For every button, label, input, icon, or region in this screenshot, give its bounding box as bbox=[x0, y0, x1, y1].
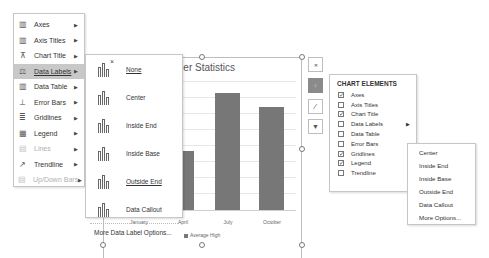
checkbox-unchecked[interactable] bbox=[338, 170, 344, 176]
data-labels-option-outside-end[interactable]: Outside End bbox=[86, 167, 182, 195]
option-label: Center bbox=[126, 94, 146, 101]
resize-handle-top-right[interactable] bbox=[299, 54, 305, 60]
submenu-arrow-icon: ▶ bbox=[74, 53, 78, 59]
flyout-inside-base[interactable]: Inside Base bbox=[408, 172, 475, 185]
option-label: Inside End bbox=[126, 122, 157, 129]
brush-icon: ⁄ bbox=[315, 102, 316, 111]
data-labels-option-inside-base[interactable]: Inside Base bbox=[86, 139, 182, 167]
resize-handle-bottom-left[interactable] bbox=[100, 242, 106, 248]
flyout-center[interactable]: Center bbox=[408, 146, 475, 159]
x-tick-label: October bbox=[252, 219, 292, 225]
lines-icon: ▤ bbox=[18, 144, 27, 153]
chart-layout-button[interactable]: ⌅ bbox=[308, 57, 323, 72]
menu-item-data-labels[interactable]: ⚖ Data Labels ▶ bbox=[14, 64, 84, 80]
menu-item-up-down-bars: ▤ Up/Down Bars ▶ bbox=[14, 172, 84, 188]
chart-title-icon: ⊼ bbox=[18, 51, 27, 60]
element-data-table[interactable]: Data Table bbox=[330, 129, 416, 139]
element-error-bars[interactable]: Error Bars bbox=[330, 139, 416, 149]
filter-icon: ▼ bbox=[312, 123, 319, 130]
menu-item-label: Lines bbox=[34, 145, 74, 152]
element-trendline[interactable]: Trendline bbox=[330, 168, 416, 178]
data-table-icon: ▥ bbox=[18, 82, 27, 91]
checkbox-unchecked[interactable] bbox=[338, 121, 344, 127]
element-chart-title[interactable]: ✓ Chart Title bbox=[330, 110, 416, 120]
menu-item-trendline[interactable]: ↗ Trendline ▶ bbox=[14, 157, 84, 173]
gridlines-icon: ≣ bbox=[18, 113, 27, 122]
checkbox-checked[interactable]: ✓ bbox=[338, 92, 344, 98]
submenu-arrow-icon: ▶ bbox=[74, 99, 78, 105]
submenu-arrow-icon: ▶ bbox=[74, 22, 78, 28]
submenu-arrow-icon: ▶ bbox=[74, 146, 78, 152]
bar-october[interactable] bbox=[259, 107, 284, 210]
data-labels-icon: ⚖ bbox=[18, 67, 27, 76]
element-label: Data Table bbox=[351, 131, 380, 137]
menu-item-error-bars[interactable]: ⊥ Error Bars ▶ bbox=[14, 95, 84, 111]
element-axes[interactable]: ✓ Axes bbox=[330, 90, 416, 100]
menu-item-label: Axes bbox=[34, 21, 74, 28]
checkbox-unchecked[interactable] bbox=[338, 141, 344, 147]
data-labels-submenu: × None Center Inside End Inside Base Out… bbox=[85, 54, 183, 218]
menu-item-gridlines[interactable]: ≣ Gridlines ▶ bbox=[14, 110, 84, 126]
submenu-arrow-icon: ▶ bbox=[74, 68, 78, 74]
checkbox-checked[interactable]: ✓ bbox=[338, 160, 344, 166]
menu-item-data-table[interactable]: ▥ Data Table ▶ bbox=[14, 79, 84, 95]
menu-item-label: Legend bbox=[34, 130, 74, 137]
option-label: Outside End bbox=[126, 178, 162, 185]
resize-handle-right[interactable] bbox=[299, 146, 305, 152]
element-label: Data Labels bbox=[351, 121, 383, 127]
chart-elements-menu: ▥ Axes ▶ ▥ Axis Titles ▶ ⊼ Chart Title ▶… bbox=[13, 13, 85, 187]
layout-icon: ⌅ bbox=[313, 61, 319, 69]
element-label: Axis Titles bbox=[351, 102, 378, 108]
flyout-more-options[interactable]: More Options... bbox=[408, 211, 475, 224]
menu-item-lines: ▤ Lines ▶ bbox=[14, 141, 84, 157]
bar-july[interactable] bbox=[215, 93, 240, 210]
trendline-icon: ↗ bbox=[18, 160, 27, 169]
option-label: None bbox=[126, 66, 142, 73]
inside-base-labels-icon bbox=[96, 145, 114, 161]
checkbox-checked[interactable]: ✓ bbox=[338, 111, 344, 117]
flyout-outside-end[interactable]: Outside End bbox=[408, 185, 475, 198]
data-labels-option-inside-end[interactable]: Inside End bbox=[86, 111, 182, 139]
menu-item-chart-title[interactable]: ⊼ Chart Title ▶ bbox=[14, 48, 84, 64]
resize-handle-bottom[interactable] bbox=[199, 242, 205, 248]
data-labels-option-data-callout[interactable]: Data Callout bbox=[86, 195, 182, 223]
chart-title[interactable]: ther Statistics bbox=[175, 62, 235, 73]
element-data-labels[interactable]: Data Labels ▶ bbox=[330, 119, 416, 129]
axes-icon: ▥ bbox=[18, 20, 27, 29]
element-gridlines[interactable]: ✓ Gridlines bbox=[330, 149, 416, 159]
more-data-label-options[interactable]: More Data Label Options... bbox=[86, 225, 182, 239]
flyout-data-callout[interactable]: Data Callout bbox=[408, 198, 475, 211]
resize-handle-top[interactable] bbox=[199, 54, 205, 60]
element-label: Gridlines bbox=[351, 151, 375, 157]
data-labels-option-none[interactable]: × None bbox=[86, 55, 182, 83]
submenu-arrow-icon: ▶ bbox=[74, 130, 78, 136]
submenu-arrow-icon: ▶ bbox=[74, 84, 78, 90]
menu-item-legend[interactable]: ▦ Legend ▶ bbox=[14, 126, 84, 142]
element-axis-titles[interactable]: Axis Titles bbox=[330, 100, 416, 110]
element-label: Chart Title bbox=[351, 111, 378, 117]
menu-item-axes[interactable]: ▥ Axes ▶ bbox=[14, 17, 84, 33]
menu-item-label: Error Bars bbox=[34, 99, 74, 106]
chart-styles-button[interactable]: ⁄ bbox=[308, 99, 323, 114]
menu-item-axis-titles[interactable]: ▥ Axis Titles ▶ bbox=[14, 33, 84, 49]
submenu-arrow-icon[interactable]: ▶ bbox=[406, 121, 410, 127]
chart-legend[interactable]: Average High bbox=[184, 232, 220, 238]
checkbox-checked[interactable]: ✓ bbox=[338, 151, 344, 157]
chart-elements-button[interactable]: + bbox=[308, 78, 323, 93]
option-label: Inside Base bbox=[126, 150, 160, 157]
data-labels-option-center[interactable]: Center bbox=[86, 83, 182, 111]
checkbox-unchecked[interactable] bbox=[338, 131, 344, 137]
element-label: Trendline bbox=[351, 170, 376, 176]
chart-filters-button[interactable]: ▼ bbox=[308, 119, 323, 134]
updown-bars-icon: ▤ bbox=[18, 175, 26, 184]
data-labels-flyout: Center Inside End Inside Base Outside En… bbox=[407, 143, 476, 225]
flyout-inside-end[interactable]: Inside End bbox=[408, 159, 475, 172]
checkbox-unchecked[interactable] bbox=[338, 102, 344, 108]
center-labels-icon bbox=[96, 89, 114, 105]
menu-item-label: Trendline bbox=[34, 161, 74, 168]
submenu-arrow-icon: ▶ bbox=[74, 161, 78, 167]
resize-handle-bottom-right[interactable] bbox=[299, 242, 305, 248]
element-legend[interactable]: ✓ Legend bbox=[330, 159, 416, 169]
menu-item-label: Up/Down Bars bbox=[33, 176, 78, 183]
legend-swatch bbox=[184, 234, 188, 238]
